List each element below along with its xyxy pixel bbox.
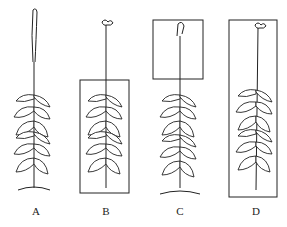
plant-d bbox=[229, 20, 277, 197]
label-d: D bbox=[246, 205, 266, 217]
diagram-canvas bbox=[0, 0, 287, 227]
plant-c bbox=[153, 20, 203, 194]
plant-a bbox=[14, 9, 50, 190]
label-c: C bbox=[170, 205, 190, 217]
label-b: B bbox=[96, 205, 116, 217]
label-a: A bbox=[26, 205, 46, 217]
plant-b bbox=[80, 20, 129, 193]
